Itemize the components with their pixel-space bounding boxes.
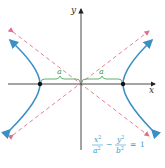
hyperbola-right-branch	[123, 40, 152, 130]
y-axis-label: y	[70, 5, 77, 15]
brace-right	[82, 76, 122, 82]
svg-text:=: =	[130, 140, 136, 149]
svg-text:b2: b2	[116, 145, 124, 155]
svg-text:−: −	[106, 140, 112, 149]
hyperbola-left-branch	[10, 40, 40, 130]
brace-left-label: a	[57, 67, 62, 76]
brace-right-label: a	[99, 67, 104, 76]
x-axis-label: x	[149, 85, 154, 95]
svg-text:y2: y2	[116, 134, 124, 144]
vertex-right	[121, 82, 125, 86]
hyperbola-equation: x2 a2 − y2 b2 = 1	[92, 134, 145, 155]
hyperbola-diagram: x y a a x2 a2 − y2 b2 = 1	[0, 0, 165, 168]
svg-text:x2: x2	[94, 134, 101, 144]
vertex-left	[38, 82, 42, 86]
svg-text:1: 1	[140, 140, 145, 149]
svg-text:a2: a2	[93, 145, 101, 155]
brace-left	[41, 76, 80, 82]
